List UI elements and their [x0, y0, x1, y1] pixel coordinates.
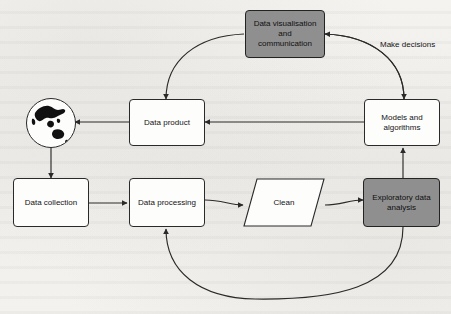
- diagram-canvas: Data visualisation and communication Dat…: [0, 0, 451, 314]
- node-label: Data processing: [138, 198, 196, 208]
- edge-clean-to-exploratory: [325, 200, 363, 205]
- node-data-product[interactable]: Data product: [129, 99, 205, 146]
- node-label-line1: Models and: [381, 113, 422, 123]
- edge-label-make-decisions: Make decisions: [380, 40, 435, 49]
- edge-exploratory-to-data-processing: [166, 227, 403, 299]
- edge-data-processing-to-clean: [205, 200, 243, 205]
- node-data-collection[interactable]: Data collection: [13, 178, 89, 227]
- node-models-and-algorithms[interactable]: Models and algorithms: [364, 99, 440, 146]
- node-label-line3: communication: [258, 39, 312, 49]
- node-clean[interactable]: Clean: [243, 178, 325, 227]
- edge-visualisation-to-data-product: [166, 34, 244, 99]
- node-label-line2: algorithms: [384, 123, 421, 133]
- node-exploratory-data-analysis[interactable]: Exploratory data analysis: [363, 178, 440, 227]
- node-data-visualisation-and-communication[interactable]: Data visualisation and communication: [245, 10, 325, 58]
- node-label-line2: analysis: [387, 203, 416, 213]
- globe-continents: [27, 99, 75, 147]
- node-data-processing[interactable]: Data processing: [129, 178, 205, 227]
- node-label-line1: Data visualisation: [254, 19, 317, 29]
- node-label-line1: Exploratory data: [372, 193, 430, 203]
- node-label: Clean: [274, 198, 295, 207]
- node-label: Data product: [144, 118, 190, 128]
- node-label: Data collection: [25, 198, 77, 208]
- globe-icon[interactable]: [26, 98, 76, 148]
- node-label-line2: and: [278, 29, 291, 39]
